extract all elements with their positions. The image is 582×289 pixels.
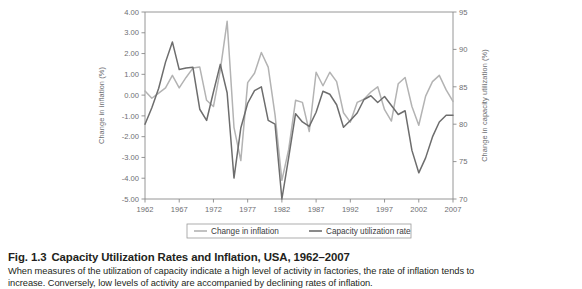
caption-body-line-1: When measures of the utilization of capa… xyxy=(8,266,574,278)
right-axis-tick-label: 70 xyxy=(459,195,467,204)
x-axis-tick-label: 2007 xyxy=(445,205,462,214)
x-axis-tick-label: 1997 xyxy=(376,205,393,214)
left-axis-tick-label: 3.00 xyxy=(124,28,139,37)
left-axis-tick-label: -3.00 xyxy=(122,153,139,162)
x-axis-tick-label: 1977 xyxy=(239,205,256,214)
x-axis-tick-label: 1962 xyxy=(137,205,154,214)
legend-label-inflation: Change in inflation xyxy=(211,227,279,236)
right-axis-tick-label: 80 xyxy=(459,120,467,129)
left-axis-tick-label: -1.00 xyxy=(122,112,139,121)
figure-caption: Fig. 1.3Capacity Utilization Rates and I… xyxy=(8,251,574,289)
x-axis-tick-label: 2002 xyxy=(410,205,427,214)
legend-label-capacity: Capacity utilization rate xyxy=(326,227,411,236)
left-axis-tick-label: 1.00 xyxy=(124,70,139,79)
x-axis-tick-label: 1967 xyxy=(171,205,188,214)
series-line-capacity xyxy=(145,42,453,199)
left-axis-tick-label: 0.00 xyxy=(124,91,139,100)
capacity-inflation-line-chart: 4.003.002.001.000.00-1.00-2.00-3.00-4.00… xyxy=(0,0,582,248)
caption-body-line-2: increase. Conversely, low levels of acti… xyxy=(8,278,574,289)
series-line-inflation xyxy=(145,21,453,180)
right-axis-tick-label: 75 xyxy=(459,157,467,166)
left-axis-tick-label: -2.00 xyxy=(122,132,139,141)
right-axis-tick-label: 85 xyxy=(459,83,467,92)
left-axis-tick-label: -5.00 xyxy=(122,195,139,204)
x-axis-tick-label: 1987 xyxy=(308,205,325,214)
x-axis-tick-label: 1992 xyxy=(342,205,359,214)
chart-figure: 4.003.002.001.000.00-1.00-2.00-3.00-4.00… xyxy=(0,0,582,248)
left-axis-tick-label: -4.00 xyxy=(122,174,139,183)
x-axis-tick-label: 1982 xyxy=(273,205,290,214)
plot-frame xyxy=(145,12,453,199)
right-axis-title: Change in capacity utilization (%) xyxy=(480,49,489,162)
x-axis-tick-label: 1972 xyxy=(205,205,222,214)
left-axis-tick-label: 4.00 xyxy=(124,8,139,17)
right-axis-tick-label: 90 xyxy=(459,45,467,54)
caption-title: Fig. 1.3Capacity Utilization Rates and I… xyxy=(8,251,574,264)
figure-title-text: Capacity Utilization Rates and Inflation… xyxy=(51,251,349,263)
figure-number: Fig. 1.3 xyxy=(8,251,46,263)
right-axis-tick-label: 95 xyxy=(459,8,467,17)
caption-body: When measures of the utilization of capa… xyxy=(8,266,574,289)
left-axis-title: Change in inflation (%) xyxy=(97,67,106,144)
left-axis-tick-label: 2.00 xyxy=(124,49,139,58)
